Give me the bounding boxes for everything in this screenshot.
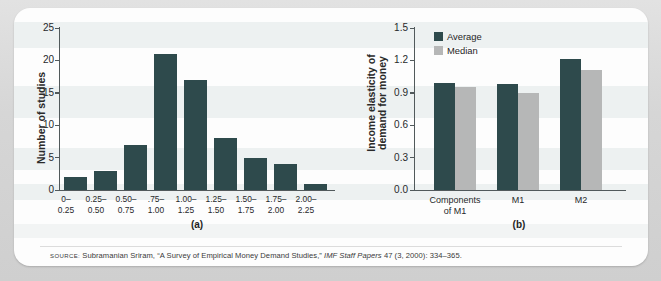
chart-a-ytick-1: 5 [32,152,54,163]
chart-a-y-axis-label: Number of studies [36,48,47,188]
bar-a-0 [64,177,87,190]
bar-a-4 [184,80,207,191]
chart-b-ytick-3: 0.9 [382,87,408,98]
bar-a-2 [124,145,147,191]
source-suffix: 47 (3, 2000): 334–365. [382,251,462,260]
bar-b-median-0 [455,87,476,190]
chart-b-ytick-0: 0.0 [382,184,408,195]
bar-b-average-0 [434,83,455,190]
chart-b-ytick-5: 1.5 [382,22,408,33]
bar-b-average-2 [560,59,581,190]
chart-b-ytick-4: 1.2 [382,54,408,65]
source-text: Subramanian Sriram, “A Survey of Empiric… [82,251,324,260]
chart-panel-a: Number of studies 0 5 10 15 20 25 [14,8,344,248]
chart-a-ytick-4: 20 [28,54,54,65]
bar-b-median-1 [518,93,539,191]
figure-root: Number of studies 0 5 10 15 20 25 [0,0,661,281]
chart-b-plot-area [415,28,626,191]
chart-a-x-axis [59,190,335,191]
chart-b-ytick-2: 0.6 [382,119,408,130]
bar-b-average-1 [497,84,518,190]
chart-a-ytick-5: 25 [28,22,54,33]
chart-a-panel-label: (a) [177,219,217,230]
figure-card: Number of studies 0 5 10 15 20 25 [14,8,648,266]
source-publication: IMF Staff Papers [324,251,382,260]
bar-a-1 [94,171,117,191]
chart-b-x-axis [414,190,626,191]
chart-panel-b: Income elasticity of demand for money 0.… [344,8,648,248]
chart-b-ytick-1: 0.3 [382,152,408,163]
source-divider [40,246,622,247]
chart-b-xtick-1: M1 [486,195,550,206]
bar-a-8 [304,184,327,191]
chart-a-ytick-3: 15 [28,87,54,98]
chart-b-panel-label: (b) [499,219,539,230]
source-note: SOURCE: Subramanian Sriram, “A Survey of… [50,251,462,260]
bar-b-median-2 [581,70,602,190]
chart-a-plot-area [60,28,335,191]
chart-a-ytick-2: 10 [28,119,54,130]
bar-a-6 [244,158,267,191]
chart-b-xtick-0: Components of M1 [423,195,487,217]
source-prefix: SOURCE: [50,253,80,259]
chart-b-xtick-2: M2 [549,195,613,206]
bar-a-7 [274,164,297,190]
chart-a-xtick-8: 2.00– 2.25 [288,194,324,215]
bar-a-5 [214,138,237,190]
bar-a-3 [154,54,177,191]
